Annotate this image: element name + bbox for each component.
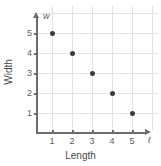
x-axis-symbol: ℓ [148,135,151,145]
x-tick-label: 2 [65,136,79,146]
gridline-vertical [72,6,73,130]
y-tick-label: 5 [20,28,32,38]
y-axis-line [36,18,38,133]
y-axis-title: Width [3,49,15,95]
gridline-vertical [92,6,93,130]
x-axis-title: Length [0,150,161,162]
y-axis-arrow-icon [33,12,39,18]
y-tick-label: 3 [20,68,32,78]
y-tick-mark [34,33,38,35]
x-tick-mark [92,130,94,134]
data-point [90,71,95,76]
gridline-horizontal [33,113,158,114]
y-tick-label: 4 [20,48,32,58]
y-tick-mark [34,73,38,75]
y-tick-label: 1 [20,108,32,118]
x-tick-mark [112,130,114,134]
gridline-horizontal [33,73,158,74]
x-tick-label: 3 [85,136,99,146]
x-tick-label: 5 [125,136,139,146]
y-tick-label: 2 [20,88,32,98]
gridline-vertical [112,6,113,130]
gridline-horizontal [33,13,158,14]
data-point [70,51,75,56]
gridline-horizontal [33,93,158,94]
y-tick-mark [34,53,38,55]
y-tick-mark [34,113,38,115]
data-point [130,111,135,116]
x-tick-mark [132,130,134,134]
y-tick-mark [34,93,38,95]
x-tick-label: 1 [45,136,59,146]
gridline-horizontal [33,53,158,54]
y-axis-symbol: w [43,11,50,21]
gridline-vertical [52,6,53,130]
data-point [50,31,55,36]
x-tick-mark [72,130,74,134]
gridline-vertical [152,6,153,130]
x-tick-label: 4 [105,136,119,146]
x-tick-mark [52,130,54,134]
data-point [110,91,115,96]
scatter-plot-figure: w ℓ 1 2 3 4 5 5 4 3 2 1 Length Width [0,0,161,166]
